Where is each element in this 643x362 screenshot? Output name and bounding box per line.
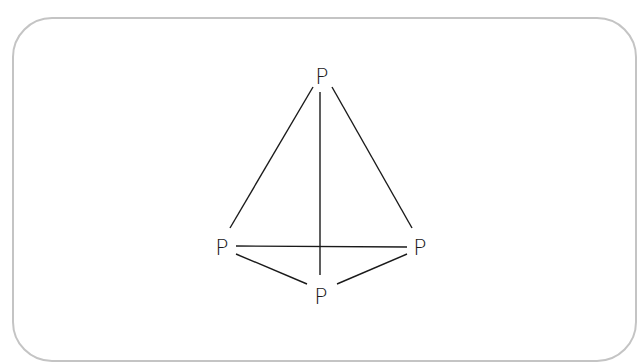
edge-top-right — [332, 87, 412, 228]
edge-right-bottom — [337, 254, 407, 284]
edge-top-left — [230, 87, 313, 228]
node-left-label: P — [215, 235, 228, 260]
edge-left-bottom — [236, 254, 307, 284]
node-bottom-label: P — [314, 284, 327, 309]
node-top-label: P — [315, 64, 328, 89]
edge-left-right — [236, 246, 407, 247]
node-right-label: P — [413, 235, 426, 260]
